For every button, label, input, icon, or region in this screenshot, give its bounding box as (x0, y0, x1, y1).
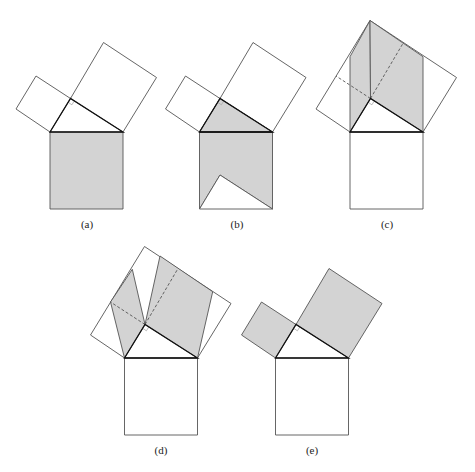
figure-c (316, 21, 457, 210)
hypotenuse-square-shaded (50, 132, 123, 209)
caption-d: (d) (155, 444, 168, 457)
figure-b (166, 43, 307, 210)
caption-a: (a) (81, 218, 94, 231)
caption-c: (c) (381, 218, 394, 231)
hypotenuse-square (350, 132, 423, 209)
leg-square-small-shaded (242, 302, 297, 358)
right-triangle (50, 99, 123, 133)
leg-square-large-shaded (296, 269, 382, 359)
figure-e (242, 269, 383, 436)
caption-e: (e) (306, 444, 319, 457)
figure-d (91, 247, 232, 436)
leg-square-large (71, 43, 157, 133)
hypotenuse-square (276, 358, 349, 435)
leg-square-small (16, 76, 71, 132)
hypotenuse-square (125, 358, 198, 435)
pythagorean-proof-diagram: (a) (b) (c) (d) (e) (0, 0, 475, 472)
figure-a (16, 43, 157, 210)
caption-b: (b) (231, 218, 244, 231)
